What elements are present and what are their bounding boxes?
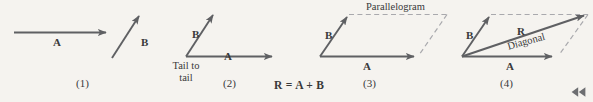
panel3-vector-b-label: B — [325, 30, 332, 42]
panel2-vector-b — [186, 15, 213, 57]
panel-1-graphics — [14, 16, 139, 58]
tail-to-tail-line-2: tail — [157, 72, 215, 84]
panel2-caption: (2) — [223, 78, 236, 90]
panel4-dashed-right — [559, 15, 588, 56]
rewind-icon[interactable] — [571, 86, 586, 98]
panel2-vector-b-label: B — [192, 29, 199, 41]
panel4-vector-b-label: B — [466, 30, 473, 42]
panel1-vector-a-label: A — [53, 37, 61, 49]
panel3-dashed-right — [419, 15, 447, 56]
panel1-vector-b — [112, 16, 139, 58]
panel-3-graphics — [320, 15, 447, 57]
panel3-vector-a-label: A — [363, 61, 371, 73]
tail-to-tail-line-1: Tail to — [157, 60, 215, 72]
panel4-caption: (4) — [500, 78, 513, 90]
panel1-caption: (1) — [76, 78, 89, 90]
vector-addition-figure: A B (1) A B Tail to tail (2) R = A + B A… — [0, 0, 593, 102]
panel2-tail-to-tail-label: Tail to tail — [157, 60, 215, 84]
panel4-vector-a-label: A — [506, 61, 514, 73]
panel2-vector-a-label: A — [224, 51, 232, 63]
panel3-caption: (3) — [363, 78, 376, 90]
panel1-vector-b-label: B — [141, 37, 148, 49]
resultant-formula: R = A + B — [274, 79, 324, 91]
panel3-parallelogram-label: Parallelogram — [366, 1, 425, 12]
